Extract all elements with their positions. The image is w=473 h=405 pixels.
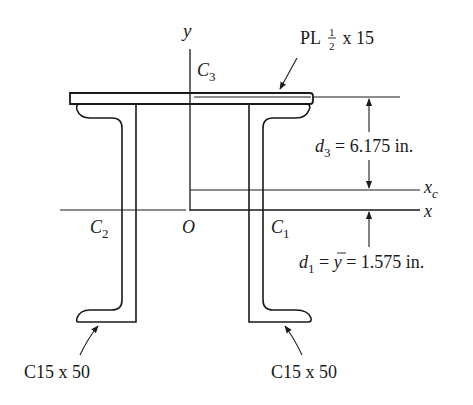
left-channel-label: C15 x 50 xyxy=(24,362,90,382)
c2-label: C2 xyxy=(90,217,109,241)
left-channel xyxy=(77,104,136,322)
y-axis-label: y xyxy=(181,20,192,41)
d1-dimension-label: d1 = y = 1.575 in. xyxy=(299,252,424,276)
plate-fraction-denominator: 2 xyxy=(329,40,335,52)
plate-label: PL xyxy=(300,28,321,48)
right-channel-label: C15 x 50 xyxy=(271,362,337,382)
d3-dimension-label: d3 = 6.175 in. xyxy=(315,136,413,160)
origin-label: O xyxy=(182,217,195,237)
xc-axis-label: xc xyxy=(423,177,438,201)
x-axis-label: x xyxy=(423,201,432,221)
c1-label: C1 xyxy=(271,217,290,241)
right-channel-leader-arrow xyxy=(285,326,302,355)
cover-plate xyxy=(70,93,313,104)
right-channel xyxy=(249,104,311,322)
plate-leader-arrow xyxy=(280,58,297,89)
built-up-section-diagram: y C3 PL 1 2 x 15 d3 = 6.175 in. xc x C2 … xyxy=(0,0,473,405)
plate-fraction-numerator: 1 xyxy=(329,26,335,38)
left-channel-leader-arrow xyxy=(80,326,98,355)
plate-label-suffix: x 15 xyxy=(338,28,374,48)
c3-label: C3 xyxy=(197,60,216,84)
